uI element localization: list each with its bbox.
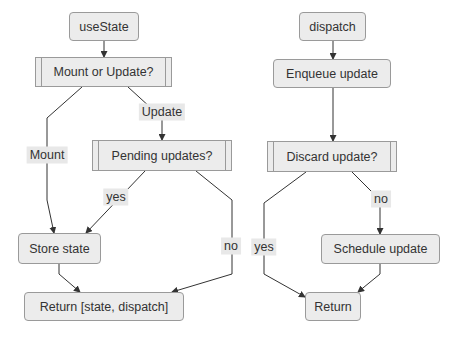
node-discard-update: Discard update?	[267, 141, 397, 172]
node-mount-or-update: Mount or Update?	[35, 57, 172, 87]
node-schedule-update: Schedule update	[321, 234, 440, 264]
edge-discard-yes	[264, 172, 306, 297]
edge-store-to-return	[59, 264, 80, 292]
edge-label-discard-no: no	[371, 191, 391, 208]
edge-label-yes: yes	[103, 189, 128, 206]
node-enqueue-update: Enqueue update	[273, 59, 391, 88]
node-return-state-dispatch: Return [state, dispatch]	[24, 292, 184, 321]
edge-pending-no	[172, 171, 232, 292]
node-usestate: useState	[69, 12, 139, 41]
flowchart-canvas: useState Mount or Update? Pending update…	[0, 0, 458, 340]
edge-schedule-to-return	[358, 264, 380, 292]
node-return: Return	[305, 292, 361, 321]
edge-label-no: no	[221, 238, 241, 255]
node-pending-updates: Pending updates?	[92, 140, 232, 171]
node-store-state: Store state	[18, 233, 101, 264]
edge-label-update: Update	[139, 104, 185, 121]
edge-label-mount: Mount	[27, 147, 68, 164]
node-dispatch: dispatch	[299, 12, 366, 41]
edge-label-discard-yes: yes	[251, 239, 276, 256]
